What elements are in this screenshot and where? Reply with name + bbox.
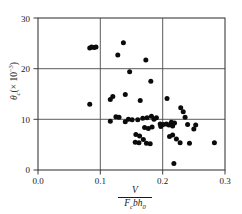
x-axis-ticks	[38, 170, 225, 175]
data-point	[87, 102, 92, 107]
plot-canvas: 0.0 0.1 0.2 0.3 0 10 20 30	[0, 0, 242, 214]
data-point	[143, 58, 148, 63]
y-axis-symbol-subscript: c	[14, 92, 21, 95]
xtick-label-1: 0.1	[95, 176, 106, 186]
data-point	[183, 115, 188, 120]
data-point	[170, 133, 175, 138]
data-point	[193, 122, 198, 127]
ytick-label-30: 30	[21, 14, 31, 24]
data-point	[93, 44, 98, 49]
data-point	[137, 134, 142, 139]
data-point	[172, 120, 177, 125]
data-point	[150, 124, 155, 129]
data-point	[136, 140, 141, 145]
data-point	[148, 141, 153, 146]
x-axis-numerator: V	[100, 186, 170, 196]
x-axis-title: V Fcbh0	[100, 186, 170, 210]
data-point	[171, 161, 176, 166]
data-point	[185, 122, 190, 127]
data-point	[158, 124, 163, 129]
y-axis-exponent: −3	[7, 65, 14, 72]
data-point	[115, 52, 120, 57]
scatter-chart-figure: 0.0 0.1 0.2 0.3 0 10 20 30 θc(× 10−3) V …	[0, 0, 242, 214]
x-axis-denominator-h-subscript: 0	[142, 202, 145, 209]
data-point	[148, 79, 153, 84]
data-point	[178, 140, 183, 145]
data-point	[135, 117, 140, 122]
data-point	[123, 92, 128, 97]
ytick-label-0: 0	[26, 165, 31, 175]
data-point	[108, 119, 113, 124]
y-axis-multiplier: × 10	[9, 72, 19, 89]
data-point	[145, 115, 150, 120]
data-point	[121, 40, 126, 45]
scatter-points-layer	[87, 40, 217, 166]
data-point	[181, 109, 186, 114]
data-point	[140, 116, 145, 121]
data-point	[108, 97, 113, 102]
ytick-label-20: 20	[21, 64, 31, 74]
xtick-label-0: 0.0	[32, 176, 44, 186]
data-point	[154, 115, 159, 120]
data-point	[187, 141, 192, 146]
data-point	[130, 117, 135, 122]
grid-lines	[38, 18, 225, 170]
data-point	[138, 98, 143, 103]
y-axis-symbol: θ	[9, 95, 19, 100]
data-point	[117, 115, 122, 120]
plot-frame	[38, 18, 225, 170]
xtick-label-3: 0.3	[219, 176, 231, 186]
data-point	[212, 140, 217, 145]
y-axis-paren-open: (	[9, 89, 19, 92]
data-point	[127, 69, 132, 74]
y-axis-ticks	[34, 18, 39, 170]
y-axis-paren-close: )	[9, 62, 19, 65]
frame-rect	[38, 18, 225, 170]
data-point	[174, 137, 179, 142]
y-axis-title: θc(× 10−3)	[7, 45, 21, 117]
ytick-label-10: 10	[21, 115, 31, 125]
y-tick-labels: 0 10 20 30	[21, 14, 31, 176]
data-point	[165, 96, 170, 101]
xtick-label-2: 0.2	[157, 176, 168, 186]
x-axis-denominator: Fcbh0	[100, 199, 170, 210]
